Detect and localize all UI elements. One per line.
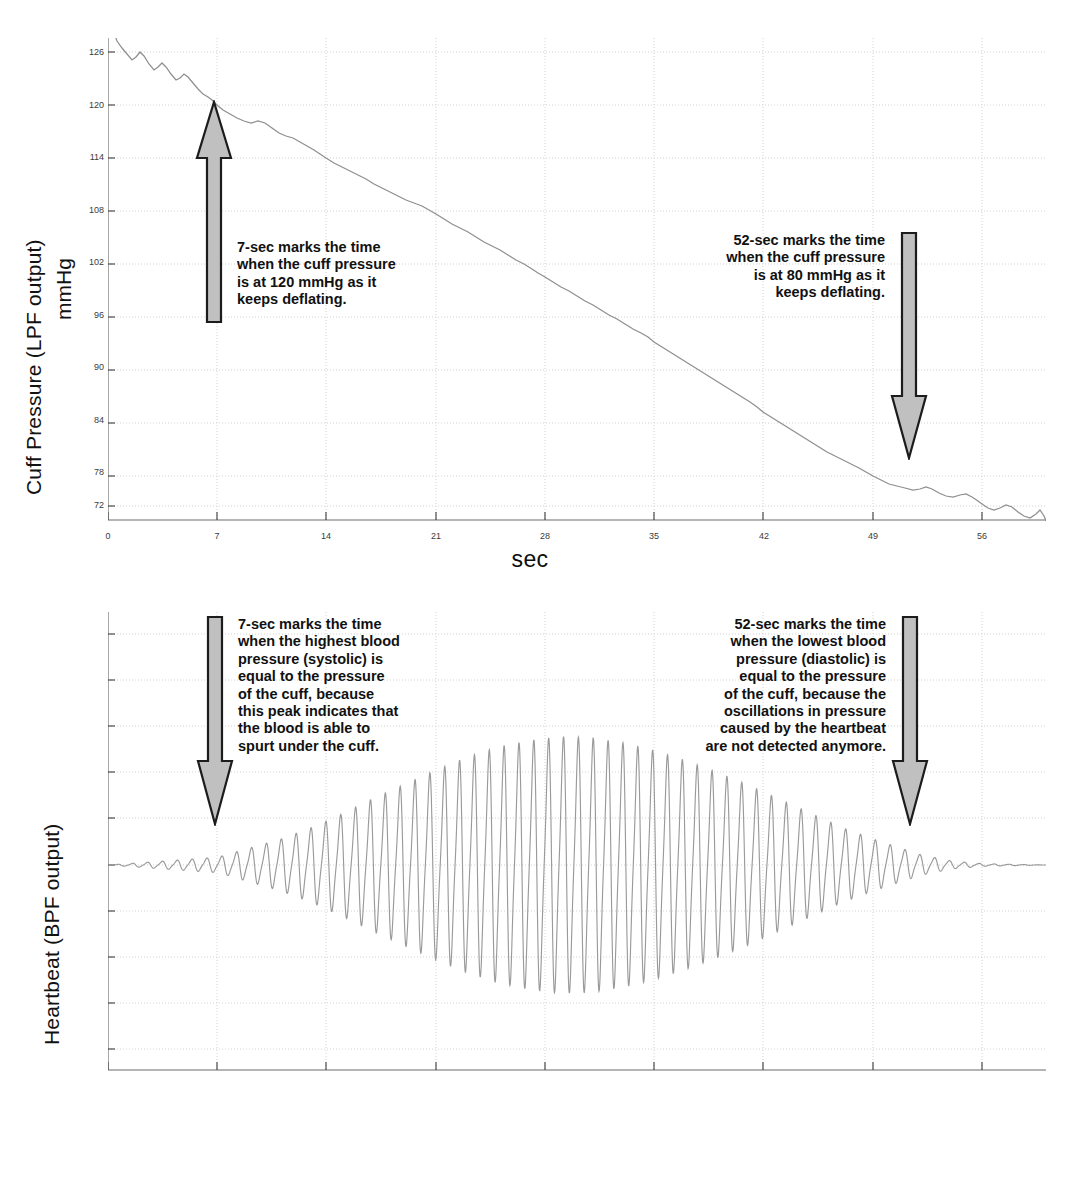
heartbeat-y-axis-title: Heartbeat (BPF output) [40,823,64,1045]
x-tick-56: 56 [970,531,994,541]
cuff-pressure-figure: Cuff Pressure (LPF output) mmHg 126 120 … [0,0,1066,590]
annotation-arrow-down-52sec [888,230,930,460]
x-tick-marks [108,512,982,520]
x-tick-7: 7 [205,531,229,541]
x-tick-marks [108,1062,982,1070]
y-tick-84: 84 [78,415,104,425]
x-tick-42: 42 [752,531,776,541]
cuff-pressure-annotation-right: 52-sec marks the time when the cuff pres… [700,232,885,302]
y-tick-102: 102 [78,257,104,267]
x-tick-28: 28 [533,531,557,541]
heartbeat-annotation-left: 7-sec marks the time when the highest bl… [238,616,434,755]
y-tick-marks [108,52,115,506]
heartbeat-annotation-right: 52-sec marks the time when the lowest bl… [688,616,886,755]
y-tick-108: 108 [78,205,104,215]
x-tick-14: 14 [314,531,338,541]
x-tick-35: 35 [642,531,666,541]
heartbeat-figure: Heartbeat (BPF output) [0,590,1066,1181]
y-tick-120: 120 [78,100,104,110]
x-tick-21: 21 [424,531,448,541]
cuff-pressure-y-axis-units: mmHg [52,258,76,320]
cuff-pressure-x-axis-title: sec [470,546,590,573]
figure-sheet: Cuff Pressure (LPF output) mmHg 126 120 … [0,0,1066,1181]
y-tick-114: 114 [78,152,104,162]
x-tick-49: 49 [861,531,885,541]
x-tick-0: 0 [96,531,120,541]
annotation-arrow-down-7sec [193,614,237,826]
y-tick-72: 72 [78,500,104,510]
y-tick-96: 96 [78,310,104,320]
y-tick-126: 126 [78,47,104,57]
cuff-pressure-y-axis-title: Cuff Pressure (LPF output) [22,239,46,495]
annotation-arrow-up-7sec [193,100,235,324]
y-tick-78: 78 [78,467,104,477]
y-tick-90: 90 [78,362,104,372]
y-tick-marks [108,634,115,1049]
annotation-arrow-down-52sec-lower [888,614,932,826]
cuff-pressure-annotation-left: 7-sec marks the time when the cuff press… [237,239,429,309]
